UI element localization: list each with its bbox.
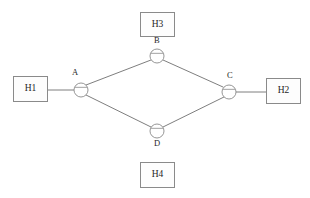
- router-circle-a: [74, 83, 88, 97]
- link-d-c: [163, 97, 224, 127]
- diagram-canvas: ·· · ··· ········ ···· · ·· ······ ···· …: [0, 0, 310, 198]
- host-label-h1: H1: [25, 84, 37, 94]
- router-circle-d: [150, 124, 164, 138]
- router-node-b[interactable]: [150, 49, 164, 63]
- host-label-h4: H4: [152, 170, 164, 180]
- router-node-layer: [74, 49, 236, 138]
- router-circle-b: [150, 49, 164, 63]
- link-a-d: [86, 95, 151, 127]
- host-box-h4[interactable]: H4: [140, 162, 175, 188]
- host-label-h3: H3: [152, 20, 164, 30]
- router-node-d[interactable]: [150, 124, 164, 138]
- router-node-c[interactable]: [222, 85, 236, 99]
- host-box-h2[interactable]: H2: [266, 78, 301, 104]
- link-a-b: [86, 60, 151, 85]
- link-b-c: [163, 60, 223, 87]
- router-node-a[interactable]: [74, 83, 88, 97]
- router-label-a: A: [72, 68, 78, 77]
- host-label-h2: H2: [278, 86, 290, 96]
- router-label-b: B: [154, 36, 160, 45]
- host-box-h1[interactable]: H1: [13, 76, 48, 102]
- host-box-h3[interactable]: H3: [140, 12, 175, 37]
- router-label-d: D: [154, 139, 160, 148]
- router-circle-c: [222, 85, 236, 99]
- router-label-c: C: [227, 71, 233, 80]
